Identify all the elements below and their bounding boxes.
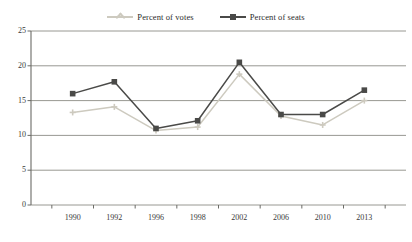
data-point-1-4 [237, 60, 243, 66]
y-tick-label-15: 15 [4, 96, 26, 105]
y-tick-label-25: 25 [4, 26, 26, 35]
y-tick-label-5: 5 [4, 165, 26, 174]
y-tick-label-10: 10 [4, 130, 26, 139]
data-point-1-2 [153, 126, 159, 132]
data-point-1-7 [362, 87, 368, 93]
x-tick-label-1996: 1996 [136, 213, 176, 222]
data-point-1-3 [195, 118, 201, 124]
x-tick-label-1998: 1998 [178, 213, 218, 222]
series-line-1 [73, 62, 365, 128]
data-point-1-6 [320, 112, 326, 118]
x-tick-label-2010: 2010 [303, 213, 343, 222]
y-tick-label-0: 0 [4, 200, 26, 209]
data-point-1-1 [112, 79, 118, 85]
x-tick-label-1992: 1992 [94, 213, 134, 222]
x-tick-label-1990: 1990 [53, 213, 93, 222]
x-tick-label-2002: 2002 [219, 213, 259, 222]
data-point-1-0 [70, 91, 76, 97]
line-chart: Percent of votes Percent of seats 051015… [0, 0, 412, 242]
data-point-1-5 [278, 112, 284, 118]
plot-area [0, 0, 412, 242]
x-tick-label-2006: 2006 [261, 213, 301, 222]
x-tick-label-2013: 2013 [344, 213, 384, 222]
y-tick-label-20: 20 [4, 61, 26, 70]
